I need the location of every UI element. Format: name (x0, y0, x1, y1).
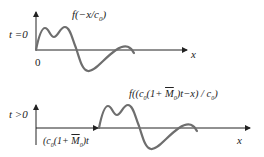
bottom-pulse-curve (99, 105, 197, 149)
bottom-t-label: t >0 (9, 109, 28, 120)
bottom-func-label: f((c0(1+ M0)t−x) / c0) (129, 89, 218, 101)
shift-distance-label: (c0(1+ M0)t (43, 136, 89, 148)
top-func-label: f(−x/c0) (72, 9, 106, 23)
top-t-label: t =0 (9, 29, 28, 40)
top-pulse-curve (36, 27, 134, 71)
top-origin-label: 0 (35, 57, 41, 68)
bottom-x-label: x (237, 135, 242, 146)
wave-diagram (0, 0, 264, 157)
top-x-label: x (191, 49, 196, 60)
